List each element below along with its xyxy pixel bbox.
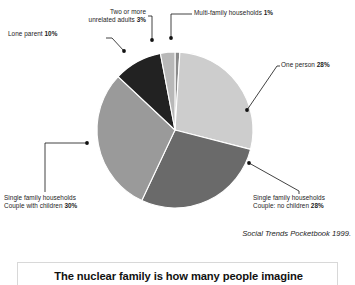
pie-chart-graphic	[0, 0, 355, 285]
slice-value: 1%	[264, 9, 273, 16]
slice-label-couple-no-children: Single family households Couple: no chil…	[253, 194, 355, 210]
slice-value: 28%	[311, 202, 324, 209]
leader-dot-lone-parent	[122, 49, 126, 53]
slice-label-couple-with-children: Single family households Couple with chi…	[4, 194, 114, 210]
caption-bar: The nuclear family is how many people im…	[17, 262, 338, 285]
caption-text: The nuclear family is how many people im…	[18, 270, 339, 282]
slice-label-text: Multi-family households	[194, 9, 262, 16]
leader-line-two-adults	[148, 16, 152, 40]
leader-line-couple-with-children	[45, 143, 87, 192]
slice-value: 30%	[64, 202, 77, 209]
slice-value: 28%	[317, 61, 330, 68]
slice-value: 3%	[137, 16, 146, 23]
slice-label-two-or-more-unrelated-adults: Two or more unrelated adults 3%	[60, 8, 146, 24]
slice-label-text: One person	[281, 61, 315, 68]
slice-label-line2: Couple with children 30%	[4, 202, 114, 210]
slice-label-line2: Couple: no children 28%	[253, 202, 355, 210]
leader-dot-couple-with-children	[85, 141, 89, 145]
pie-slices-group	[97, 52, 253, 208]
slice-label-line1: Two or more	[110, 8, 146, 15]
leader-line-couple-no-children	[249, 163, 299, 194]
leader-dot-multi-family	[169, 36, 173, 40]
slice-label-lone-parent: Lone parent 10%	[8, 30, 104, 38]
pie-chart-figure: Two or more unrelated adults 3% Lone par…	[0, 0, 355, 285]
slice-label-multi-family-households: Multi-family households 1%	[194, 9, 314, 17]
leader-dot-two-adults	[150, 38, 154, 42]
leader-dot-couple-no-children	[247, 161, 251, 165]
slice-label-one-person: One person 28%	[281, 61, 355, 69]
slice-label-text: Lone parent	[8, 30, 43, 37]
leader-line-lone-parent	[106, 38, 124, 51]
leader-line-multi-family	[171, 14, 192, 38]
leader-dot-one-person	[245, 108, 249, 112]
leader-line-one-person	[247, 66, 280, 110]
slice-label-line1: Single family households	[4, 194, 76, 201]
source-attribution: Social Trends Pocketbook 1999.	[196, 229, 351, 238]
slice-label-line2: unrelated adults 3%	[60, 16, 146, 24]
slice-value: 10%	[45, 30, 58, 37]
slice-label-line1: Single family households	[253, 194, 325, 201]
